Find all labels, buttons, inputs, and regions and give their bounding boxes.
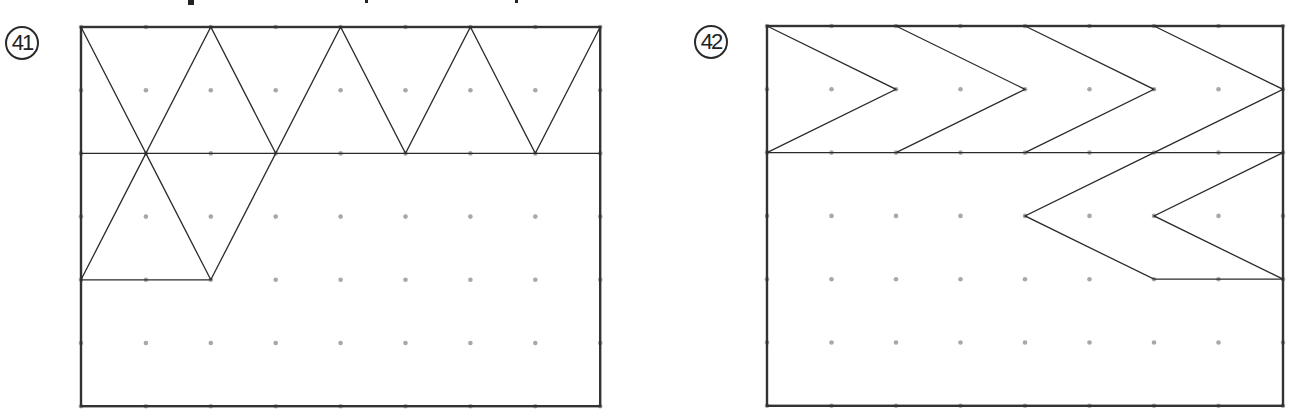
- grid-dot: [403, 341, 408, 346]
- grid-dot: [1087, 340, 1092, 345]
- grid-dot: [958, 87, 963, 92]
- grid-dot: [209, 341, 214, 346]
- grid-dot: [209, 88, 214, 93]
- grid-dot: [468, 214, 473, 219]
- grid-dot: [829, 87, 834, 92]
- grid-dot: [403, 88, 408, 93]
- grid-dot: [894, 340, 899, 345]
- grid-dot: [958, 214, 963, 219]
- grid-dot: [533, 214, 538, 219]
- grid-dot: [1216, 340, 1221, 345]
- drawn-segment: [211, 153, 276, 279]
- grid-dot: [468, 278, 473, 283]
- grid-dot: [1152, 340, 1157, 345]
- grid-dot: [273, 214, 278, 219]
- grid-dot: [533, 88, 538, 93]
- grid-dot: [533, 278, 538, 283]
- grid-dot: [1216, 214, 1221, 219]
- grid-dot: [338, 278, 343, 283]
- grid-dot: [468, 341, 473, 346]
- grid-dot: [1216, 87, 1221, 92]
- grid-dot: [1023, 277, 1028, 282]
- grid-dot: [829, 214, 834, 219]
- grid-dot: [403, 214, 408, 219]
- grid-dot: [894, 214, 899, 219]
- grid-dot: [958, 340, 963, 345]
- grid-dot: [273, 341, 278, 346]
- grid-dot: [144, 341, 149, 346]
- grid-dot: [829, 340, 834, 345]
- grid-dot: [533, 341, 538, 346]
- grid-dot: [209, 214, 214, 219]
- grid-dot: [144, 88, 149, 93]
- grid-dot: [958, 277, 963, 282]
- grid-dot: [468, 88, 473, 93]
- grid-dot: [338, 341, 343, 346]
- grid-dot: [403, 278, 408, 283]
- problem-42-diagram: [765, 24, 1286, 408]
- grid-dot: [144, 214, 149, 219]
- grid-dot: [894, 277, 899, 282]
- grid-dot: [273, 88, 278, 93]
- grid-dot: [1087, 214, 1092, 219]
- grid-dot: [338, 214, 343, 219]
- grid-dot: [273, 278, 278, 283]
- grid-dot: [1087, 277, 1092, 282]
- grid-dot: [1087, 87, 1092, 92]
- problem-41-diagram: [79, 25, 603, 409]
- grid-dot: [338, 88, 343, 93]
- grid-dot: [829, 277, 834, 282]
- grid-dot: [1023, 340, 1028, 345]
- dot-grid-diagrams: [0, 0, 1293, 411]
